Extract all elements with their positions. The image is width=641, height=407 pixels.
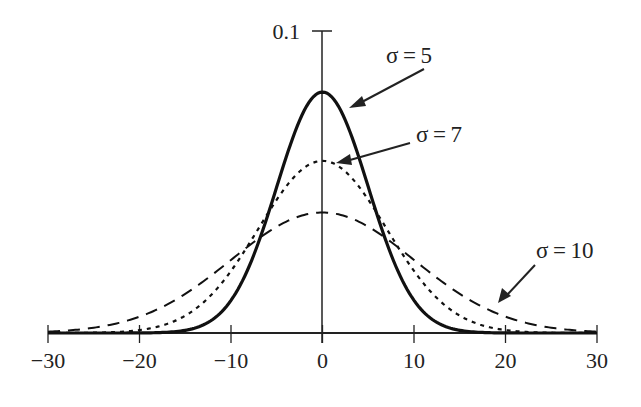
y-tick-label: 0.1	[273, 19, 301, 44]
x-tick-label: 20	[495, 348, 517, 373]
normal-distribution-chart: −30−20−100102030 0.1 σ = 5 σ = 7 σ = 10	[0, 0, 641, 407]
annotations: σ = 5 σ = 7 σ = 10	[386, 43, 594, 263]
arrowhead-icon	[349, 96, 366, 108]
x-tick-label: −30	[31, 348, 65, 373]
x-tick-label: −20	[122, 348, 156, 373]
x-tick-label: −10	[214, 348, 248, 373]
annotation-sigma-10: σ = 10	[536, 238, 594, 263]
annotation-sigma-5: σ = 5	[386, 43, 432, 68]
x-tick-label: 0	[317, 348, 328, 373]
arrow-sigma-5	[360, 69, 424, 103]
arrows	[336, 69, 535, 303]
arrow-sigma-10	[507, 265, 535, 295]
x-tick-label: 30	[586, 348, 608, 373]
arrowhead-icon	[498, 288, 511, 303]
x-tick-label: 10	[403, 348, 425, 373]
annotation-sigma-7: σ = 7	[416, 122, 462, 147]
arrowhead-icon	[336, 154, 352, 165]
arrow-sigma-7	[350, 143, 410, 160]
axes: −30−20−100102030	[31, 31, 608, 373]
